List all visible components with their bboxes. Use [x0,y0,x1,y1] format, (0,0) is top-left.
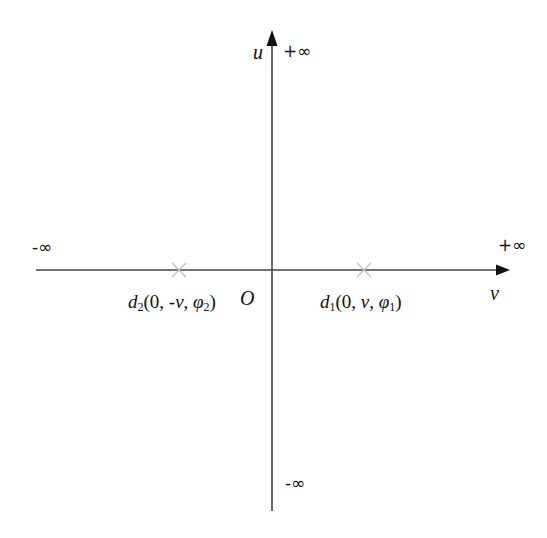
d1-name: d [320,291,330,312]
u-positive-infinity-label: +∞ [283,43,311,60]
v-negative-infinity-label: -∞ [32,239,52,256]
d2-v: v [175,291,183,312]
d1-sep: , [369,291,379,312]
d1-close: ) [395,291,401,312]
d2-sep: , [184,291,194,312]
coordinate-diagram [0,0,547,538]
d1-v: v [361,291,369,312]
d1-point-label: d1(0, v, φ1) [320,292,402,313]
horizontal-axis-arrow-icon [496,265,510,276]
d2-phi: φ [193,291,204,312]
v-positive-infinity-label: +∞ [498,237,526,254]
v-axis-label: v [490,283,499,303]
u-negative-infinity-label: -∞ [285,475,305,492]
d2-point-label: d2(0, -v, φ2) [128,292,216,313]
d2-close: ) [210,291,216,312]
u-axis-label: u [253,42,263,62]
d2-name: d [128,291,138,312]
d1-coords-prefix: (0, [336,291,361,312]
vertical-axis-arrow-icon [267,30,278,46]
d2-coords-prefix: (0, - [144,291,176,312]
origin-label: O [240,288,254,308]
d1-phi: φ [379,291,390,312]
